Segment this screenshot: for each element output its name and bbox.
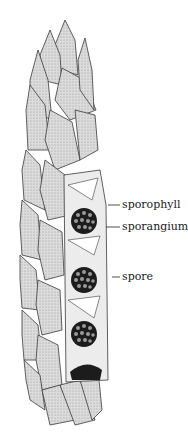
label-sporangium: sporangium xyxy=(122,221,188,233)
label-sporophyll: sporophyll xyxy=(122,199,181,211)
leader-lines xyxy=(106,205,120,277)
label-spore: spore xyxy=(122,271,153,283)
